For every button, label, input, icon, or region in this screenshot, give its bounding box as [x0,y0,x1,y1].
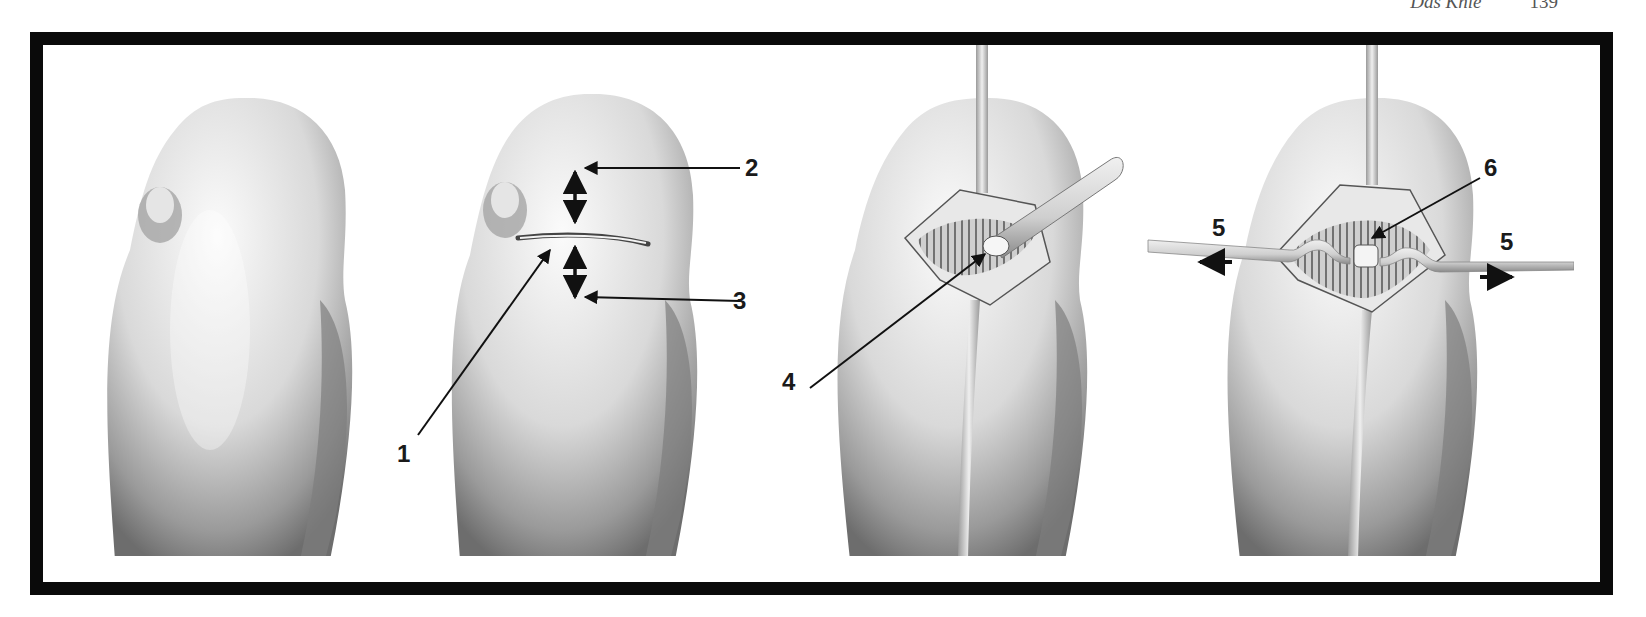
figure-illustration: 1 2 3 4 5 5 6 [0,0,1646,617]
label-1: 1 [397,440,410,467]
label-5-right: 5 [1500,228,1513,255]
label-4: 4 [782,368,796,395]
label-3: 3 [733,287,746,314]
label-2: 2 [745,154,758,181]
panel-1-knee [107,98,352,560]
panel-2-incision [452,94,697,560]
label-5-left: 5 [1212,214,1225,241]
panel-3-opened-capsule [838,45,1124,560]
label-6: 6 [1484,154,1497,181]
panel-4-retracted-capsule [1148,45,1574,560]
